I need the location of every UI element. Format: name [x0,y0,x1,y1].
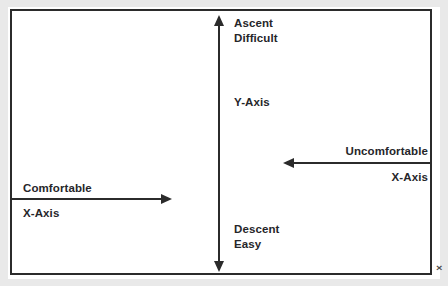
comfortable-x-axis-arrowhead [161,194,172,204]
comfortable-label: Comfortable [23,181,92,196]
uncomfortable-label: Uncomfortable [280,144,428,159]
page-margin-right [440,0,448,286]
comfortable-x-axis-line [11,198,163,200]
uncomfortable-x-axis-line [294,162,430,164]
y-axis-label: Y-Axis [234,95,270,110]
y-axis-top-label-difficult: Difficult [234,31,278,46]
uncomfortable-x-axis-label: X-Axis [280,170,428,185]
y-axis-top-label-ascent: Ascent [234,16,273,31]
diagram-border-frame [10,9,432,275]
scan-artifact-x-glyph: × [436,263,442,273]
y-axis-bottom-label-easy: Easy [234,237,261,252]
y-axis-bottom-label-descent: Descent [234,222,279,237]
y-axis-down-arrowhead [214,261,224,272]
page-margin-bottom [0,279,448,286]
page-margin-top [0,0,448,7]
page-margin-left [0,0,8,286]
uncomfortable-x-axis-arrowhead [283,158,294,168]
y-axis-up-arrowhead [214,15,224,26]
y-axis-line [218,24,220,264]
comfortable-x-axis-label: X-Axis [23,206,59,221]
diagram-canvas: Ascent Difficult Y-Axis Descent Easy Com… [0,0,448,286]
